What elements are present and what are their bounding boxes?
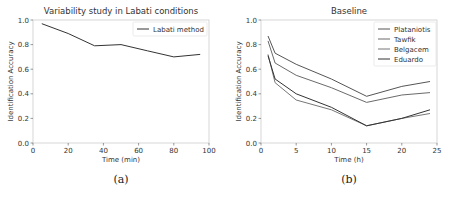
x-tick-label: 60	[134, 147, 143, 155]
chart-a: Variability study in Labati conditions0.…	[7, 6, 216, 186]
x-tick-label: 80	[169, 147, 178, 155]
y-tick-label: 0.2	[18, 115, 29, 123]
y-tick-label: 0.8	[246, 41, 257, 49]
x-axis-label: Time (min)	[101, 156, 140, 164]
y-tick-label: 0.2	[246, 115, 257, 123]
x-tick-label: 5	[294, 147, 298, 155]
subfigure-caption: (b)	[341, 173, 357, 186]
y-tick-label: 0.4	[18, 90, 30, 98]
legend-label: Labati method	[153, 26, 204, 34]
y-tick-label: 1.0	[246, 17, 257, 25]
legend: PlataniotisTawfikBelgacemEduardo	[374, 22, 436, 66]
figure: Variability study in Labati conditions0.…	[0, 0, 454, 197]
y-tick-label: 0.0	[18, 140, 29, 148]
x-tick-label: 20	[397, 147, 406, 155]
x-tick-label: 0	[259, 147, 263, 155]
legend: Labati method	[133, 22, 207, 36]
x-axis-label: Time (h)	[333, 156, 364, 164]
x-tick-label: 100	[202, 147, 215, 155]
x-tick-label: 15	[362, 147, 371, 155]
legend-label: Belgacem	[394, 46, 429, 54]
legend-label: Plataniotis	[394, 26, 431, 34]
x-tick-label: 10	[327, 147, 336, 155]
y-tick-label: 1.0	[18, 17, 29, 25]
subfigure-caption: (a)	[113, 173, 128, 186]
x-tick-label: 40	[99, 147, 108, 155]
y-axis-label: Identification Accuracy	[235, 41, 243, 121]
chart-b: Baseline0.00.20.40.60.81.00510152025Time…	[235, 6, 441, 186]
x-tick-label: 0	[31, 147, 35, 155]
y-tick-label: 0.6	[18, 66, 30, 74]
x-tick-label: 25	[433, 147, 442, 155]
y-tick-label: 0.8	[18, 41, 29, 49]
y-tick-label: 0.0	[246, 140, 257, 148]
y-tick-label: 0.6	[246, 66, 258, 74]
legend-label: Eduardo	[394, 56, 423, 64]
plot-frame	[33, 20, 209, 143]
y-tick-label: 0.4	[246, 90, 258, 98]
chart-title: Baseline	[331, 6, 367, 16]
y-axis-label: Identification Accuracy	[7, 41, 15, 121]
legend-label: Tawfik	[393, 36, 417, 44]
chart-title: Variability study in Labati conditions	[44, 6, 199, 16]
x-tick-label: 20	[64, 147, 73, 155]
